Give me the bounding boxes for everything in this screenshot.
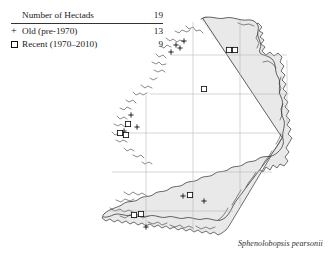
marker-plus-old [173,42,178,47]
legend-title-count: 19 [143,9,163,22]
marker-square-recent [138,211,143,216]
square-glyph [11,41,18,48]
marker-plus-old [181,38,186,43]
legend-row-old: + Old (pre-1970) 13 [11,25,163,38]
legend-table: Number of Hectads 19 + Old (pre-1970) 13 [11,9,163,51]
marker-square-recent [201,86,206,91]
legend-title-symbol-cell [11,9,22,22]
square-symbol-icon [11,38,22,51]
marker-plus-old [168,49,173,54]
legend-row-recent: Recent (1970–2010) 9 [11,38,163,51]
legend-title-row: Number of Hectads 19 [11,9,163,22]
marker-square-recent [117,130,122,135]
legend-divider [11,23,163,24]
legend-panel: Number of Hectads 19 + Old (pre-1970) 13 [11,9,163,51]
distribution-map-figure: Number of Hectads 19 + Old (pre-1970) 13 [0,0,331,263]
marker-plus-old [177,45,182,50]
marker-square-recent [125,121,130,126]
legend-label-old: Old (pre-1970) [22,25,143,38]
legend-count-old: 13 [143,25,163,38]
marker-square-recent [123,132,128,137]
plus-symbol-icon: + [11,25,22,38]
marker-square-recent [131,212,136,217]
species-caption: Sphenolobopsis pearsonii [238,239,323,248]
legend-label-recent: Recent (1970–2010) [22,38,143,51]
legend-count-recent: 9 [143,38,163,51]
plus-glyph: + [11,26,17,35]
marker-square-recent [226,47,231,52]
marker-square-recent [187,192,192,197]
legend-title-label: Number of Hectads [22,9,143,22]
marker-square-recent [232,47,237,52]
